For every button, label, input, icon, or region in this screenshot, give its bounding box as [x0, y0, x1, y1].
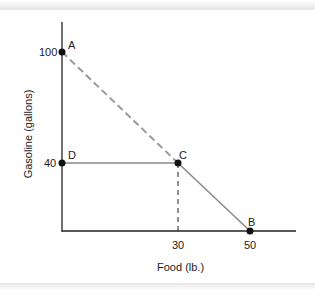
dashed-line-a-c [62, 52, 178, 163]
line-c-b [178, 163, 250, 231]
y-axis-label: Gasoline (gallons) [23, 90, 34, 179]
chart: 100 40 30 50 A D C B Food (lb.) Gasoline… [0, 0, 315, 290]
y-tick-40: 40 [44, 158, 56, 169]
label-a: A [68, 40, 75, 51]
x-tick-30: 30 [172, 240, 184, 251]
plot-area [0, 0, 315, 290]
x-tick-50: 50 [244, 240, 256, 251]
label-c: C [179, 150, 187, 161]
label-d: D [68, 150, 76, 161]
label-b: B [248, 217, 255, 228]
point-b [247, 228, 254, 235]
x-axis-label: Food (lb.) [157, 262, 204, 273]
point-a [59, 49, 66, 56]
y-tick-100: 100 [39, 47, 57, 58]
point-d [59, 160, 66, 167]
